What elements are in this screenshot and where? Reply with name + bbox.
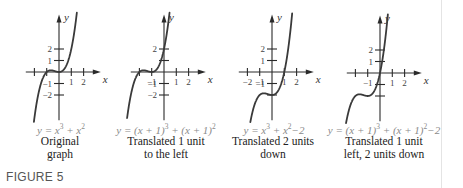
y-axis-label: y: [63, 11, 69, 23]
y-tick-label: 2: [153, 44, 158, 54]
x-tick-label: 2: [186, 77, 191, 87]
figure-label: FIGURE 5: [6, 170, 64, 184]
x-axis-label: x: [207, 73, 213, 85]
x-tick-label: −1: [363, 78, 373, 88]
function-curve: [34, 13, 77, 122]
function-curve: [346, 14, 388, 123]
x-axis-arrow-icon: [414, 71, 422, 76]
x-axis-arrow-icon: [198, 70, 206, 75]
y-axis-arrow-icon: [378, 16, 383, 24]
y-tick-label: −1: [255, 79, 265, 89]
graph-translated-left: −1122−1−2xy: [127, 11, 213, 121]
x-tick-label: 1: [69, 77, 74, 87]
x-axis-arrow-icon: [306, 70, 314, 75]
equation-original: y = x3 + x2: [37, 122, 85, 136]
caption-original: Original graph: [41, 135, 79, 160]
x-tick-label: 2: [294, 77, 299, 87]
y-tick-label: −2: [147, 90, 157, 100]
graph-translated-left-down: −11221xy: [346, 12, 429, 124]
y-tick-label: 1: [48, 56, 53, 66]
equation-translated-left: y = (x + 1)3 + (x + 1)2: [116, 122, 216, 136]
caption-translated-left-down: Translated 1 unit left, 2 units down: [344, 135, 425, 160]
y-tick-label: −2: [42, 90, 52, 100]
y-tick-label: 1: [261, 56, 266, 66]
y-axis-arrow-icon: [57, 15, 62, 23]
x-tick-label: −2: [243, 77, 253, 87]
x-axis-arrow-icon: [93, 70, 101, 75]
x-axis-label: x: [102, 73, 108, 85]
x-tick-label: 2: [81, 77, 86, 87]
y-tick-label: −1: [42, 79, 52, 89]
y-tick-label: −1: [147, 79, 157, 89]
x-tick-label: 1: [174, 77, 179, 87]
x-axis-label: x: [315, 73, 321, 85]
x-tick-label: 1: [390, 78, 395, 88]
equation-translated-down: y = x3 + x2−2: [244, 122, 305, 136]
equation-translated-left-down: y = (x + 1)3 + (x + 1)2−2: [328, 122, 440, 136]
y-axis-arrow-icon: [162, 15, 167, 23]
graph-original: 1221−1−2xy: [26, 11, 108, 122]
y-tick-label: 1: [369, 57, 374, 67]
function-curve: [127, 13, 169, 118]
y-axis-arrow-icon: [270, 15, 275, 23]
x-tick-label: 2: [402, 78, 407, 88]
y-tick-label: 2: [261, 44, 266, 54]
caption-translated-left: Translated 1 unit to the left: [127, 135, 205, 160]
caption-translated-down: Translated 2 units down: [232, 135, 314, 160]
x-axis-label: x: [423, 74, 429, 86]
y-tick-label: 2: [369, 45, 374, 55]
graph-translated-down: −2−11221−1xy: [239, 11, 321, 123]
y-axis-label: y: [276, 11, 282, 23]
y-tick-label: 2: [48, 44, 53, 54]
function-curve: [250, 13, 292, 122]
